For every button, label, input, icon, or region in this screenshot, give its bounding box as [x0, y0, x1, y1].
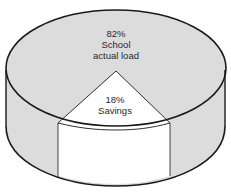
pie-chart: 82% School actual load 18% Savings: [0, 0, 231, 192]
slice-savings-side: [58, 123, 170, 184]
label-school-line2: actual load: [93, 50, 139, 61]
label-school-pct: 82%: [106, 28, 126, 39]
label-savings-pct: 18%: [105, 94, 125, 105]
label-savings-name: Savings: [98, 105, 132, 116]
label-school-line1: School: [101, 39, 130, 50]
